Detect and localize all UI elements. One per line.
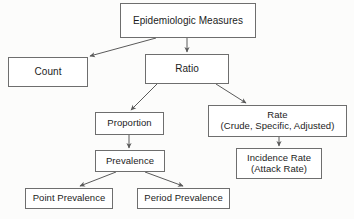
edge-ratio-to-proportion	[131, 84, 157, 110]
node-label-prevalence: Prevalence	[106, 156, 154, 167]
node-incidence-rate[interactable]: Incidence Rate(Attack Rate)	[236, 148, 322, 179]
node-epidemiologic-measures[interactable]: Epidemiologic Measures	[120, 3, 256, 38]
node-prevalence[interactable]: Prevalence	[95, 150, 165, 172]
node-proportion[interactable]: Proportion	[95, 112, 164, 135]
node-period-prevalence[interactable]: Period Prevalence	[137, 188, 230, 209]
node-label-incidence-rate-line2: (Attack Rate)	[251, 164, 307, 175]
node-count[interactable]: Count	[8, 57, 88, 87]
edge-ratio-to-rate	[216, 84, 246, 103]
node-label-point-prevalence: Point Prevalence	[33, 193, 106, 204]
node-label-period-prevalence: Period Prevalence	[144, 193, 222, 204]
diagram-canvas: Epidemiologic MeasuresCountRatioProporti…	[0, 0, 354, 219]
node-ratio[interactable]: Ratio	[145, 54, 229, 84]
node-label-epidemiologic-measures: Epidemiologic Measures	[133, 15, 243, 26]
node-rate[interactable]: Rate(Crude, Specific, Adjusted)	[208, 105, 347, 137]
node-label-count: Count	[35, 66, 62, 77]
node-point-prevalence[interactable]: Point Prevalence	[25, 188, 113, 209]
node-label-incidence-rate-line1: Incidence Rate	[247, 153, 311, 164]
node-label-rate-line2: (Crude, Specific, Adjusted)	[221, 121, 335, 132]
node-label-proportion: Proportion	[107, 118, 151, 129]
edge-prevalence-to-point-prevalence	[80, 172, 116, 186]
node-label-ratio: Ratio	[175, 63, 199, 74]
edge-prevalence-to-period-prevalence	[145, 172, 183, 186]
